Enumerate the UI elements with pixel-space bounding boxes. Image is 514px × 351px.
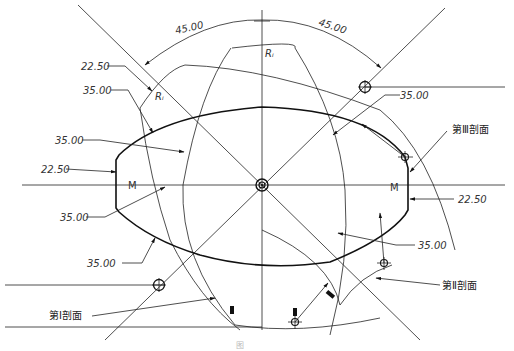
leader-22-50-mid bbox=[66, 169, 116, 172]
leader-35-00-right-top bbox=[333, 95, 400, 135]
target-markers bbox=[152, 80, 413, 329]
section2-direction-arrow bbox=[380, 213, 384, 263]
leader-35-00-mid bbox=[82, 140, 184, 152]
leader-35-00-upper bbox=[111, 90, 153, 133]
bottom-block-vertical bbox=[293, 308, 297, 316]
centerlines bbox=[5, 5, 505, 340]
rotor-section-drawing: 45.00 45.00 Rᵢ Rᵢ 22.50 35.00 35.00 22.5… bbox=[0, 0, 514, 351]
section3-direction-arrow bbox=[362, 124, 405, 157]
leader-section2 bbox=[376, 278, 440, 285]
leader-35-00-lower bbox=[86, 187, 165, 217]
marker-bottom-point bbox=[288, 316, 302, 329]
dim-35-00-upper: 35.00 bbox=[83, 85, 112, 96]
bottom-direction-arrow bbox=[295, 283, 328, 322]
dim-35-00-right-lower: 35.00 bbox=[418, 240, 447, 251]
dim-22-50-right: 22.50 bbox=[458, 194, 487, 205]
bottom-block-diagonal bbox=[326, 290, 335, 299]
radius-label-top: Rᵢ bbox=[265, 48, 274, 59]
dim-35-00-lower: 35.00 bbox=[60, 212, 89, 223]
section-1-label: 第Ⅰ剖面 bbox=[49, 309, 82, 321]
left-block-vertical bbox=[230, 306, 234, 314]
section-2-label: 第Ⅱ剖面 bbox=[442, 279, 477, 291]
angle-label-right: 45.00 bbox=[317, 16, 348, 35]
leader-35-00-bottom bbox=[122, 238, 155, 263]
dim-22-50-top: 22.50 bbox=[81, 61, 110, 72]
marker-upper-right-circle bbox=[358, 80, 372, 94]
dim-35-00-bottom: 35.00 bbox=[87, 258, 116, 269]
dim-35-00-right-top: 35.00 bbox=[400, 90, 429, 101]
marker-m-right: M bbox=[390, 182, 399, 193]
leader-section1 bbox=[92, 298, 215, 316]
dim-35-00-mid: 35.00 bbox=[55, 135, 84, 146]
dim-22-50-mid: 22.50 bbox=[41, 164, 70, 175]
leader-22-50-top bbox=[107, 66, 152, 91]
profile-curve-left-arc bbox=[183, 48, 380, 329]
diagonal-centerline-nw-se bbox=[78, 5, 420, 340]
figure-caption: 图 bbox=[236, 341, 244, 350]
profile-curve-left-lower-arc bbox=[140, 108, 240, 330]
angle-label-left: 45.00 bbox=[174, 19, 204, 36]
marker-lower-left-circle bbox=[152, 278, 166, 292]
section-3-label: 第Ⅲ剖面 bbox=[452, 123, 489, 135]
marker-m-left: M bbox=[128, 180, 137, 191]
motion-arrows bbox=[230, 124, 405, 322]
section-labels: 第Ⅰ剖面 第Ⅱ剖面 第Ⅲ剖面 bbox=[49, 123, 489, 321]
radius-label-left: Rᵢ bbox=[155, 91, 164, 102]
